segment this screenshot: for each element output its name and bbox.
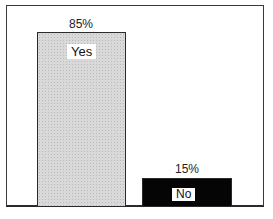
category-label-no: No bbox=[172, 188, 195, 201]
value-label-no: 15% bbox=[157, 162, 217, 176]
category-label-yes: Yes bbox=[67, 44, 96, 59]
value-label-yes: 85% bbox=[51, 17, 111, 31]
